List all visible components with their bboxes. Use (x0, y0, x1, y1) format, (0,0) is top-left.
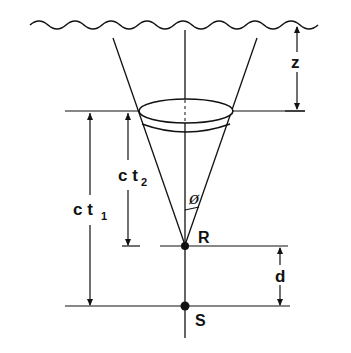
diagram-canvas: z c t 1 c t 2 ø R d S (0, 0, 351, 353)
label-ct1-sub: 1 (101, 210, 107, 222)
label-z: z (291, 53, 300, 72)
label-ct1: c t (73, 200, 93, 219)
label-ct2-sub: 2 (141, 176, 147, 188)
label-phi: ø (188, 188, 200, 208)
cone-left-line (113, 38, 185, 245)
label-d: d (275, 267, 285, 286)
lower-ellipse (142, 124, 230, 132)
label-R: R (198, 229, 210, 246)
source-point-S (181, 302, 190, 311)
upper-ellipse (139, 99, 233, 123)
label-S: S (195, 312, 206, 329)
cone-right-line (185, 38, 257, 245)
wavy-surface (30, 21, 318, 29)
label-ct2: c t (118, 166, 138, 185)
receiver-point-R (181, 242, 189, 250)
